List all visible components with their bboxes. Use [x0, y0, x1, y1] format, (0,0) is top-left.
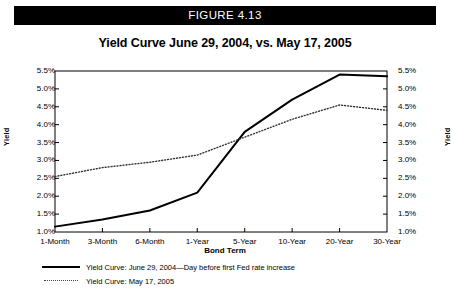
figure-banner-label: FIGURE 4.13: [188, 10, 261, 22]
legend-item-dotted: Yield Curve: May 17, 2005: [42, 274, 372, 288]
plot-area: Yield Yield Bond Term 1.0%1.5%2.0%2.5%3.…: [0, 60, 450, 245]
legend-swatch-solid-icon: [42, 262, 80, 272]
x-axis-title: Bond Term: [0, 246, 450, 255]
series-line-dotted: [55, 105, 387, 177]
chart-title: Yield Curve June 29, 2004, vs. May 17, 2…: [0, 36, 450, 50]
legend-item-solid: Yield Curve: June 29, 2004—Day before fi…: [42, 260, 372, 274]
line-chart-canvas: [0, 60, 450, 245]
legend-swatch-dotted-icon: [42, 276, 80, 286]
legend-label-dotted: Yield Curve: May 17, 2005: [86, 277, 174, 286]
series-line-solid: [55, 75, 387, 227]
chart-legend: Yield Curve: June 29, 2004—Day before fi…: [42, 260, 372, 288]
figure-banner: FIGURE 4.13: [14, 6, 436, 25]
legend-label-solid: Yield Curve: June 29, 2004—Day before fi…: [86, 263, 295, 272]
